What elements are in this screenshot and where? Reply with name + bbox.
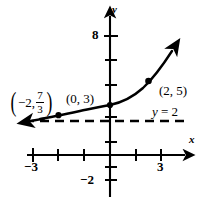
point-label-2-5: (2, 5) xyxy=(159,84,187,97)
fraction-denominator: 3 xyxy=(37,104,43,115)
data-point-neg2 xyxy=(55,112,61,118)
y-tick-label-8: 8 xyxy=(92,28,99,41)
close-paren: ) xyxy=(47,94,53,111)
asymptote-label: y = 2 xyxy=(152,105,178,118)
asymptote-label-equation: = 2 xyxy=(161,104,178,119)
data-point-2-5 xyxy=(145,78,152,85)
data-point-origin xyxy=(107,102,113,108)
x-tick-label-neg3: −3 xyxy=(24,160,38,173)
y-axis-label: y xyxy=(112,4,117,15)
point-label-origin: (0, 3) xyxy=(66,92,94,105)
x-axis-label: x xyxy=(189,134,195,145)
asymptote-label-variable: y xyxy=(152,104,158,119)
point-label-neg2: ( −2, 7 3 ) xyxy=(9,90,54,115)
y-tick-label-neg2: −2 xyxy=(80,173,94,186)
open-paren: ( xyxy=(11,94,17,111)
fraction-seven-thirds: 7 3 xyxy=(36,90,44,115)
fraction-numerator: 7 xyxy=(37,90,43,101)
x-tick-label-3: 3 xyxy=(157,160,164,173)
point-x-value: −2, xyxy=(18,96,35,109)
exponential-function-graph: x y −3 3 8 −2 ( −2, 7 3 ) (0, 3) (2, 5) … xyxy=(0,0,202,205)
